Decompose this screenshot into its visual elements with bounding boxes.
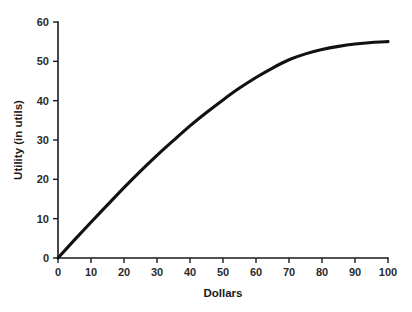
- y-axis-ticks: 0102030405060: [37, 16, 58, 264]
- y-tick-label: 0: [43, 252, 49, 264]
- x-tick-label: 30: [151, 266, 163, 278]
- x-tick-label: 80: [316, 266, 328, 278]
- y-tick-label: 10: [37, 213, 49, 225]
- y-tick-label: 40: [37, 95, 49, 107]
- utility-curve-chart: 0102030405060 0102030405060708090100 Dol…: [0, 0, 412, 312]
- x-tick-label: 60: [250, 266, 262, 278]
- axes-group: [58, 22, 388, 258]
- x-axis-ticks: 0102030405060708090100: [55, 258, 397, 278]
- x-tick-label: 10: [85, 266, 97, 278]
- y-tick-label: 60: [37, 16, 49, 28]
- x-tick-label: 100: [379, 266, 397, 278]
- x-tick-label: 20: [118, 266, 130, 278]
- y-tick-label: 30: [37, 134, 49, 146]
- utility-curve-line: [58, 42, 388, 258]
- x-tick-label: 90: [349, 266, 361, 278]
- x-tick-label: 0: [55, 266, 61, 278]
- y-axis-title: Utility (in utils): [12, 100, 24, 180]
- x-tick-label: 40: [184, 266, 196, 278]
- y-tick-label: 20: [37, 173, 49, 185]
- x-tick-label: 70: [283, 266, 295, 278]
- x-tick-label: 50: [217, 266, 229, 278]
- chart-canvas: 0102030405060 0102030405060708090100 Dol…: [0, 0, 412, 312]
- y-tick-label: 50: [37, 55, 49, 67]
- x-axis-title: Dollars: [204, 287, 243, 299]
